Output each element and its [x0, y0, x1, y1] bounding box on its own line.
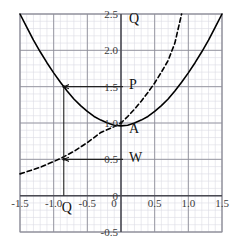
label-a: A — [129, 121, 140, 136]
point-on-exponential — [62, 158, 65, 161]
x-tick-label: 1.0 — [181, 197, 195, 209]
label-q-bottom: Q — [62, 200, 72, 215]
point-on-parabola — [62, 85, 65, 88]
x-tick-label: -0.5 — [79, 197, 97, 209]
label-w: W — [129, 150, 143, 165]
x-tick-label: 1.5 — [215, 197, 229, 209]
y-tick-label: 2.0 — [104, 44, 118, 56]
y-tick-label: 2.5 — [104, 8, 118, 20]
function-plot: -1.5-1.0-0.500.51.01.52.52.01.51.00.50-0… — [0, 0, 242, 245]
x-tick-label: -1.5 — [11, 197, 29, 209]
construction-lines — [62, 85, 123, 195]
point-a — [120, 122, 123, 125]
y-tick-label: 0 — [113, 190, 119, 202]
y-tick-label: 1.5 — [104, 81, 118, 93]
chart-figure: -1.5-1.0-0.500.51.01.52.52.01.51.00.50-0… — [0, 0, 242, 245]
label-p: P — [129, 77, 137, 92]
label-q-top: Q — [129, 11, 139, 26]
x-tick-label: 0.5 — [148, 197, 162, 209]
y-tick-label: 0.5 — [104, 153, 118, 165]
x-tick-label: -1.0 — [45, 197, 63, 209]
y-tick-label: 1.0 — [104, 117, 118, 129]
y-tick-label: -0.5 — [101, 226, 119, 238]
